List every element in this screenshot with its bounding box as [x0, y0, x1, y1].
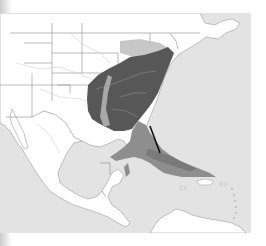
range-map [0, 13, 251, 233]
puerto-rico [220, 183, 226, 185]
jamaica [180, 187, 186, 189]
map-canvas [0, 13, 251, 233]
